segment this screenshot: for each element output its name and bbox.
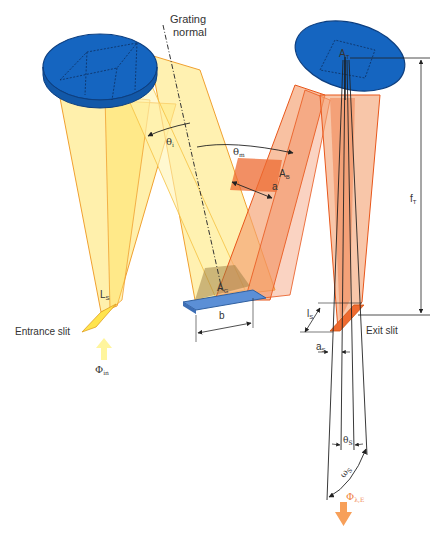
flux-out-arrow	[335, 502, 352, 526]
collimating-mirror	[43, 34, 157, 108]
flux-in-arrow	[96, 338, 112, 360]
monochromator-diagram: Grating normal θi θm AT AB a AG b LS Ent…	[0, 0, 440, 538]
b-label: b	[219, 310, 225, 321]
entrance-slit	[82, 304, 116, 332]
exit-slit-label: Exit slit	[366, 325, 398, 336]
phi-out-label: Φλ,E	[346, 491, 364, 503]
theta-m-label: θm	[233, 146, 245, 158]
phi-in-label: Φin	[95, 364, 109, 376]
entrance-slit-label: Entrance slit	[15, 326, 70, 337]
l-s-small-label: lS	[307, 308, 313, 320]
grating-normal-label-1: Grating	[170, 13, 206, 25]
grating-width-dimension	[198, 323, 251, 333]
a-label: a	[272, 181, 278, 192]
a-s-label: aS	[316, 341, 326, 353]
f-t-label: fT	[410, 193, 417, 205]
grating-normal-label-2: normal	[173, 26, 207, 38]
theta-s-label: θS	[343, 435, 353, 446]
